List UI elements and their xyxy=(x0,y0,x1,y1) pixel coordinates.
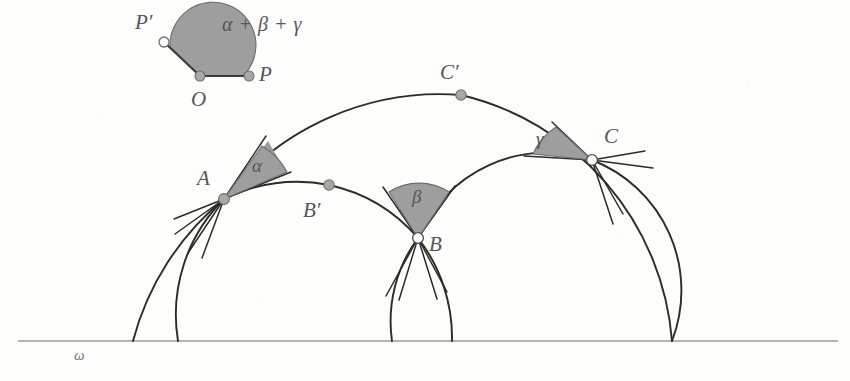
baseline-label-omega: ω xyxy=(74,347,85,364)
angle-label-beta: β xyxy=(412,186,421,208)
midpoint-dot-C-prime xyxy=(456,90,466,100)
inset-point-P xyxy=(244,71,254,81)
midpoint-dot-B-prime xyxy=(324,180,334,190)
figure-canvas: α + β + γ P′ O P A B C B′ C′ α β γ ω xyxy=(0,0,850,381)
vertex-dot-C xyxy=(587,155,598,166)
vertex-dot-A xyxy=(219,194,230,205)
geodesic-arc-A-C xyxy=(133,94,672,341)
angle-label-alpha: α xyxy=(252,155,262,177)
point-label-A: A xyxy=(197,166,210,191)
point-label-B: B xyxy=(429,232,442,257)
point-label-B-prime: B′ xyxy=(303,198,320,223)
hyperbolic-triangle-diagram xyxy=(0,0,850,381)
inset-point-P-prime xyxy=(159,37,169,47)
point-label-O: O xyxy=(191,87,206,112)
point-label-C-prime: C′ xyxy=(440,60,459,85)
point-label-P: P xyxy=(259,62,272,87)
angle-sum-expression: α + β + γ xyxy=(222,13,302,36)
vertex-dot-B xyxy=(413,233,424,244)
point-label-P-prime: P′ xyxy=(135,10,152,35)
inset-point-O xyxy=(195,71,205,81)
point-label-C: C xyxy=(604,124,618,149)
angle-label-gamma: γ xyxy=(536,128,544,150)
